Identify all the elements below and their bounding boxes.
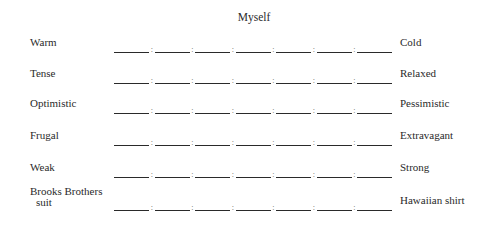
scale-row-frugal-extravagant: Frugal : : : : : : Extravagant	[0, 129, 487, 149]
scale-point-1[interactable]	[114, 52, 149, 53]
left-anchor-label: Optimistic	[30, 98, 76, 109]
right-anchor-label: Extravagant	[400, 130, 453, 141]
scale-point-5[interactable]	[276, 52, 311, 53]
separator: :	[190, 107, 196, 115]
right-anchor-label: Cold	[400, 37, 421, 48]
separator: :	[230, 46, 236, 54]
separator: :	[311, 77, 317, 85]
scale-point-5[interactable]	[276, 210, 311, 211]
scale-point-4[interactable]	[236, 177, 271, 178]
separator: :	[352, 139, 358, 147]
separator: :	[149, 204, 155, 212]
scale-point-2[interactable]	[155, 145, 190, 146]
scale-point-2[interactable]	[155, 177, 190, 178]
scale-point-3[interactable]	[195, 52, 230, 53]
scale-point-7[interactable]	[357, 83, 392, 84]
rating-scale: : : : : : :	[114, 138, 392, 146]
separator: :	[311, 171, 317, 179]
separator: :	[190, 46, 196, 54]
separator: :	[230, 171, 236, 179]
scale-point-2[interactable]	[155, 113, 190, 114]
separator: :	[230, 204, 236, 212]
scale-point-3[interactable]	[195, 83, 230, 84]
scale-point-6[interactable]	[317, 177, 352, 178]
separator: :	[311, 204, 317, 212]
scale-point-1[interactable]	[114, 145, 149, 146]
separator: :	[311, 139, 317, 147]
scale-point-4[interactable]	[236, 113, 271, 114]
scale-row-tense-relaxed: Tense : : : : : : Relaxed	[0, 67, 487, 87]
scale-point-7[interactable]	[357, 145, 392, 146]
scale-point-4[interactable]	[236, 52, 271, 53]
scale-point-3[interactable]	[195, 210, 230, 211]
separator: :	[190, 77, 196, 85]
separator: :	[271, 77, 277, 85]
left-anchor-label: Tense	[30, 68, 56, 79]
left-anchor-label: Frugal	[30, 130, 59, 141]
scale-point-7[interactable]	[357, 113, 392, 114]
left-anchor-line-2: suit	[30, 197, 102, 208]
rating-scale: : : : : : :	[114, 203, 392, 211]
separator: :	[230, 107, 236, 115]
separator: :	[352, 204, 358, 212]
scale-point-6[interactable]	[317, 83, 352, 84]
separator: :	[271, 107, 277, 115]
scale-point-1[interactable]	[114, 177, 149, 178]
separator: :	[271, 204, 277, 212]
scale-point-5[interactable]	[276, 113, 311, 114]
scale-point-6[interactable]	[317, 52, 352, 53]
scale-row-optimistic-pessimistic: Optimistic : : : : : : Pessimistic	[0, 97, 487, 117]
separator: :	[149, 77, 155, 85]
rating-scale: : : : : : :	[114, 106, 392, 114]
scale-point-6[interactable]	[317, 113, 352, 114]
separator: :	[271, 139, 277, 147]
scale-point-7[interactable]	[357, 210, 392, 211]
right-anchor-label: Hawaiian shirt	[400, 195, 464, 206]
scale-point-2[interactable]	[155, 83, 190, 84]
separator: :	[352, 171, 358, 179]
scale-row-suit-hawaiian-shirt: Brooks Brothers suit : : : : : : Hawaiia…	[0, 194, 487, 214]
separator: :	[149, 171, 155, 179]
scale-point-5[interactable]	[276, 145, 311, 146]
right-anchor-label: Strong	[400, 162, 429, 173]
scale-row-warm-cold: Warm : : : : : : Cold	[0, 36, 487, 56]
scale-point-2[interactable]	[155, 210, 190, 211]
separator: :	[311, 107, 317, 115]
right-anchor-label: Relaxed	[400, 68, 436, 79]
scale-title: Myself	[0, 11, 487, 23]
left-anchor-label: Brooks Brothers suit	[30, 186, 102, 207]
separator: :	[149, 46, 155, 54]
separator: :	[311, 46, 317, 54]
scale-point-7[interactable]	[357, 177, 392, 178]
scale-point-6[interactable]	[317, 145, 352, 146]
separator: :	[190, 139, 196, 147]
right-anchor-label: Pessimistic	[400, 98, 450, 109]
scale-point-5[interactable]	[276, 177, 311, 178]
scale-point-1[interactable]	[114, 113, 149, 114]
separator: :	[149, 107, 155, 115]
left-anchor-label: Weak	[30, 162, 55, 173]
rating-scale: : : : : : :	[114, 76, 392, 84]
scale-point-4[interactable]	[236, 210, 271, 211]
rating-scale: : : : : : :	[114, 170, 392, 178]
rating-scale: : : : : : :	[114, 45, 392, 53]
scale-point-2[interactable]	[155, 52, 190, 53]
scale-row-weak-strong: Weak : : : : : : Strong	[0, 161, 487, 181]
separator: :	[271, 171, 277, 179]
separator: :	[352, 77, 358, 85]
scale-point-1[interactable]	[114, 83, 149, 84]
scale-point-1[interactable]	[114, 210, 149, 211]
scale-point-6[interactable]	[317, 210, 352, 211]
scale-point-5[interactable]	[276, 83, 311, 84]
separator: :	[271, 46, 277, 54]
scale-point-4[interactable]	[236, 83, 271, 84]
scale-point-7[interactable]	[357, 52, 392, 53]
scale-point-3[interactable]	[195, 145, 230, 146]
scale-point-3[interactable]	[195, 113, 230, 114]
separator: :	[230, 139, 236, 147]
separator: :	[190, 171, 196, 179]
scale-point-4[interactable]	[236, 145, 271, 146]
separator: :	[149, 139, 155, 147]
scale-point-3[interactable]	[195, 177, 230, 178]
separator: :	[352, 46, 358, 54]
